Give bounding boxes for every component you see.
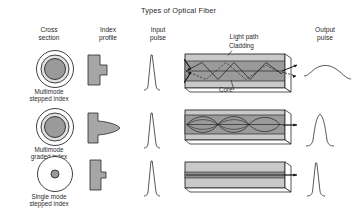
column-header-line2: pulse xyxy=(134,34,182,42)
column-header-line1: Output xyxy=(300,26,350,34)
row-label-multimode-stepped: Multimode stepped index xyxy=(9,88,89,103)
output-pulse-multimode-graded xyxy=(303,108,353,150)
index-profile-multimode-graded xyxy=(86,111,132,145)
cross-section-multimode-graded xyxy=(26,107,84,147)
row-label-line2: stepped index xyxy=(9,95,89,102)
page-title: Types of Optical Fiber xyxy=(0,6,357,15)
index-profile-multimode-stepped xyxy=(86,53,126,87)
annotation-core: Core xyxy=(219,86,233,93)
row-label-single-mode-stepped: Single mode stepped index xyxy=(9,193,89,208)
input-pulse-multimode-graded xyxy=(140,110,174,150)
column-header-output-pulse: Output pulse xyxy=(300,26,350,41)
column-header-line1: Index xyxy=(83,26,133,34)
column-header-input-pulse: Input pulse xyxy=(134,26,182,41)
column-header-line2: profile xyxy=(83,34,133,42)
column-header-light-path: Light path xyxy=(196,33,292,41)
light-path-multimode-graded xyxy=(184,108,299,150)
optical-fiber-diagram: Types of Optical Fiber Cross section Ind… xyxy=(0,0,357,213)
row-label-line2: stepped index xyxy=(9,200,89,207)
cross-section-single-mode-stepped xyxy=(26,155,84,193)
row-label-line1: Multimode xyxy=(9,146,89,153)
column-header-cross-section: Cross section xyxy=(18,26,80,41)
column-header-line1: Input xyxy=(134,26,182,34)
annotation-cladding: Cladding xyxy=(229,42,254,49)
row-label-line1: Single mode xyxy=(9,193,89,200)
column-header-index-profile: Index profile xyxy=(83,26,133,41)
row-label-line1: Multimode xyxy=(9,88,89,95)
column-header-line1: Cross xyxy=(18,26,80,34)
input-pulse-single-mode-stepped xyxy=(140,158,174,198)
cross-section-multimode-stepped xyxy=(26,49,84,89)
input-pulse-multimode-stepped xyxy=(140,52,174,92)
light-path-multimode-stepped xyxy=(184,50,299,95)
column-header-line1: Light path xyxy=(196,33,292,41)
output-pulse-single-mode-stepped xyxy=(303,158,353,200)
light-path-single-mode-stepped xyxy=(184,160,299,200)
column-header-line2: section xyxy=(18,34,80,42)
output-pulse-multimode-stepped xyxy=(303,52,353,92)
index-profile-single-mode-stepped xyxy=(88,159,124,191)
column-header-line2: pulse xyxy=(300,34,350,42)
